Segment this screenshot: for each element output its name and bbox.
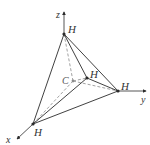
bond-c-h-bottom bbox=[33, 81, 73, 124]
labels: z y x H H H H C bbox=[5, 9, 146, 145]
x-axis bbox=[17, 124, 33, 139]
h-middle-point bbox=[85, 76, 88, 79]
h-top-label: H bbox=[67, 23, 77, 35]
z-axis-label: z bbox=[55, 9, 60, 20]
bond-c-h-top bbox=[64, 34, 73, 81]
h-right-label: H bbox=[120, 80, 130, 92]
h-middle-label: H bbox=[89, 68, 99, 80]
dashed-bonds bbox=[33, 34, 118, 124]
h-bottom-label: H bbox=[33, 126, 43, 138]
c-center-point bbox=[72, 80, 75, 83]
x-axis-label: x bbox=[5, 134, 11, 145]
h-right-point bbox=[116, 89, 119, 92]
methane-tetrahedron-diagram: z y x H H H H C bbox=[0, 0, 150, 145]
c-center-label: C bbox=[62, 75, 69, 86]
h-top-point bbox=[62, 32, 65, 35]
axes bbox=[17, 12, 146, 139]
y-axis-label: y bbox=[140, 94, 146, 105]
edge-bottom-right bbox=[33, 91, 118, 124]
edge-top-middle bbox=[64, 34, 87, 78]
bond-c-h-right bbox=[73, 81, 118, 91]
